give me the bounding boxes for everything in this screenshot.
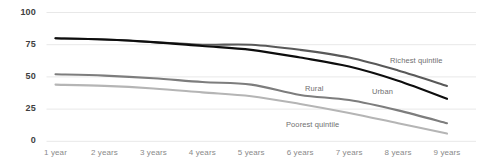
- chart-plot-area: [0, 0, 481, 167]
- x-tick-label: 1 year: [33, 148, 79, 157]
- y-tick-label: 0: [2, 135, 36, 145]
- series-line-richest-quintile: [56, 38, 448, 86]
- x-tick-label: 3 years: [130, 148, 176, 157]
- series-label-urban: Urban: [372, 87, 393, 96]
- x-tick-label: 5 years: [228, 148, 274, 157]
- series-label-richest-quintile: Richest quintile: [390, 56, 442, 65]
- x-tick-label: 9 years: [424, 148, 470, 157]
- x-tick-label: 6 years: [277, 148, 323, 157]
- x-tick-label: 2 years: [81, 148, 127, 157]
- x-tick-label: 4 years: [179, 148, 225, 157]
- line-chart: 1007550250 1 year2 years3 years4 years5 …: [0, 0, 481, 167]
- y-tick-label: 75: [2, 39, 36, 49]
- y-tick-label: 50: [2, 71, 36, 81]
- series-label-poorest-quintile: Poorest quintile: [286, 120, 339, 129]
- series-line-rural: [56, 74, 448, 123]
- series-label-rural: Rural: [305, 84, 323, 93]
- y-tick-label: 25: [2, 103, 36, 113]
- series-lines: [56, 38, 448, 133]
- x-tick-label: 7 years: [326, 148, 372, 157]
- x-tick-label: 8 years: [375, 148, 421, 157]
- y-tick-label: 100: [2, 7, 36, 17]
